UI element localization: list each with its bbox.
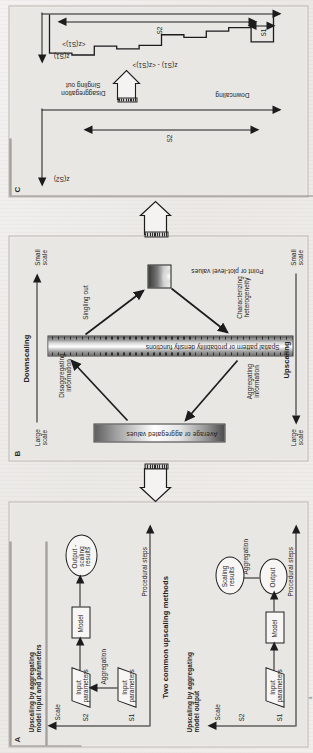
panel-b-characterizing-label: Characterizing heterogeneity	[235, 266, 250, 328]
panel-a-bottom-output-label: Output	[268, 562, 275, 592]
panel-a-top-input-to-model-arrowhead	[74, 634, 86, 646]
panel-b-upscaling-axis	[295, 273, 296, 415]
panel-a-top-model-box-bar-left	[11, 745, 28, 746]
panel-a-top-s2-label: S2	[81, 713, 88, 721]
panel-a-bottom-scale-axis	[213, 725, 295, 726]
panel-a-center-title: Two common upscaling methods	[161, 576, 168, 698]
panel-a-top-model-label: Model	[76, 610, 83, 636]
panel-a-top-model-to-output-arrowhead	[74, 572, 86, 584]
panel-a-top-model-to-output-arrow	[79, 582, 80, 606]
panel-a-top-model-box-bar-right	[28, 745, 45, 746]
panel-a-top-input-params-s2-label: Input parameters	[74, 672, 89, 702]
panel-a-top-s1-gridline	[10, 541, 11, 746]
panel-a-bottom-steps-axis	[295, 531, 296, 726]
panel-a-top-input-params-s1-label: Input parameters	[120, 672, 135, 702]
panel-a-top-steps-axis	[149, 531, 150, 726]
panel-c-right-s2-extent-arrow-top	[57, 15, 69, 27]
panel-a-bottom-title: Upscaling by aggregating model output	[185, 592, 200, 732]
panel-a-bottom-model-to-output-arrowhead	[268, 588, 280, 600]
panel-a-bottom-scale-arrowhead	[207, 719, 219, 731]
panel-a-bottom-scale-label: Scale	[213, 704, 220, 721]
panel-a-bottom-steps-label: Procedural steps	[286, 546, 293, 596]
panel-c-s1-label: S1	[259, 28, 266, 36]
panel-a-top-s1-label: S1	[127, 713, 134, 721]
panel-a: A Upscaling by aggregating model input a…	[8, 501, 308, 747]
panel-a-bottom-s1-label: S1	[275, 713, 282, 721]
panel-a-top-scale-arrowhead	[47, 719, 59, 731]
panel-a-bottom-input-to-model-arrowhead	[268, 639, 280, 651]
panel-c-right-s2-extent-arrow-bottom	[247, 15, 259, 27]
panel-c-right-s2-label: S2	[155, 26, 162, 34]
panel-a-top-steps-label: Procedural steps	[140, 546, 147, 596]
panel-a-top-aggregation-label: Aggregation	[99, 648, 106, 684]
panel-a-top-input-to-model-arrow	[79, 644, 80, 670]
panel-b-upscaling-arrowhead	[290, 412, 302, 424]
panel-a-bottom-s1-gridline	[46, 541, 47, 746]
panel-a-top-title: Upscaling by aggregating model input and…	[27, 592, 42, 732]
panel-b-upscaling-label: Upscaling	[282, 341, 289, 378]
panel-a-bottom-scaling-results-label: Scaling results	[221, 560, 234, 592]
figure-canvas: A Upscaling by aggregating model input a…	[0, 0, 313, 753]
panel-a-bottom-s2-label: S2	[237, 713, 244, 721]
panel-a-bottom-model-label: Model	[270, 615, 277, 641]
panel-b-disaggregating-label: Disaggregating information	[57, 344, 72, 406]
panel-a-top-scale-axis	[53, 725, 149, 726]
panel-c: C z(S2) S2 Downcaling	[8, 5, 308, 197]
downscaling-arrow-grip	[144, 231, 168, 237]
panel-b-arrow-network	[9, 236, 307, 460]
panel-a-top-aggregation-arrowhead	[88, 681, 100, 693]
panel-b-aggregating-label: Aggregating information	[245, 350, 260, 412]
panel-a-bottom-input-to-model-arrow	[273, 649, 274, 670]
panel-b-singling-out-label: Singling out	[81, 274, 88, 330]
panel-a-top-scale-label: Scale	[53, 704, 60, 721]
upscaling-arrow-grip	[144, 463, 168, 469]
panel-b: B Downscaling Large scale Small scale Av…	[8, 235, 308, 461]
panel-a-letter: A	[12, 736, 21, 742]
panel-a-bottom-input-params-label: Input parameters	[268, 672, 283, 702]
panel-a-top-output-label: Output - scaling results	[71, 538, 91, 574]
panel-a-bottom-model-box-bar-right	[64, 745, 81, 746]
panel-a-bottom-steps-arrowhead	[290, 522, 302, 534]
panel-c-right-s2-extent-line	[63, 21, 253, 22]
panel-a-bottom-model-box-bar-left	[47, 745, 64, 746]
panel-b-bottom-right-scale: Small scale	[289, 244, 304, 270]
panel-a-top-steps-arrowhead	[144, 522, 156, 534]
panel-b-bottom-left-scale: Large scale	[289, 424, 304, 450]
